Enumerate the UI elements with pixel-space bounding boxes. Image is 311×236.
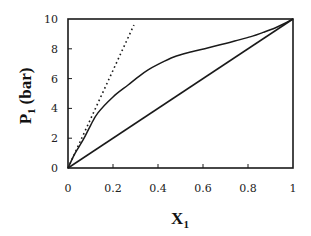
y-axis-title-unit: (bar) xyxy=(16,68,35,105)
x-tick-label: 0.2 xyxy=(104,182,122,195)
y-tick-label: 0 xyxy=(51,162,58,175)
x-tick-label: 1 xyxy=(290,182,297,195)
x-axis-title: X1 xyxy=(171,209,189,230)
x-axis-title-subscript: 1 xyxy=(183,218,189,230)
x-tick-label: 0.8 xyxy=(239,182,257,195)
y-axis-title-main: P xyxy=(16,114,35,124)
x-tick-label: 0 xyxy=(65,182,72,195)
y-tick-label: 10 xyxy=(44,13,58,26)
y-tick-label: 6 xyxy=(51,73,58,86)
y-axis-title-subscript: 1 xyxy=(25,108,37,114)
series-layer xyxy=(68,19,293,168)
x-tick-label: 0.4 xyxy=(149,182,167,195)
y-axis-title: P1(bar) xyxy=(16,68,37,125)
x-axis-title-main: X xyxy=(171,209,184,228)
y-tick-label: 4 xyxy=(51,102,58,115)
y-tick-label: 8 xyxy=(51,43,58,56)
y-tick-label: 2 xyxy=(51,132,58,145)
chart: 00.20.40.60.81 0246810 X1 P1(bar) xyxy=(0,0,311,236)
series-raoults-law xyxy=(68,19,293,168)
x-tick-label: 0.6 xyxy=(194,182,212,195)
